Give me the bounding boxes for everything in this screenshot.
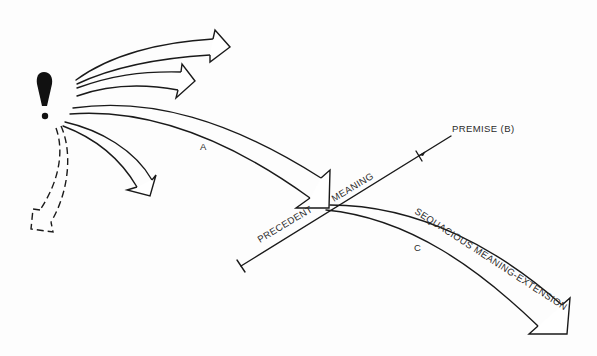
arrow-top-long — [76, 30, 230, 84]
arrow-c-label: C — [414, 242, 421, 253]
diagram-canvas: PREMISE (B) MEANING PRECEDENT SEQUACIOUS… — [0, 0, 597, 356]
arrow-short-down — [63, 122, 156, 196]
arrow-a — [70, 105, 330, 208]
arrow-dashed — [31, 126, 68, 232]
extension-label: SEQUACIOUS MEANING-EXTENSION — [413, 205, 570, 312]
meaning-extension-diagram: PREMISE (B) MEANING PRECEDENT SEQUACIOUS… — [0, 0, 597, 356]
premise-label: PREMISE (B) — [452, 123, 514, 134]
exclamation-icon — [37, 72, 52, 119]
arrow-a-label: A — [200, 141, 207, 152]
arrow-top-short — [77, 64, 195, 98]
